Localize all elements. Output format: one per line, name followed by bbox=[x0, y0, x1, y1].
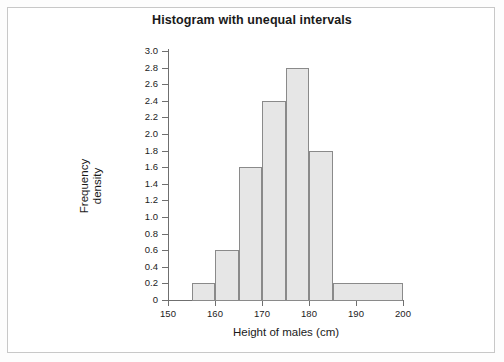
y-tick-mark bbox=[162, 117, 168, 118]
y-axis-line bbox=[168, 49, 169, 301]
histogram-bar bbox=[262, 101, 286, 301]
x-tick-mark bbox=[403, 300, 404, 306]
histogram-bar bbox=[333, 283, 404, 301]
y-tick-label: 1.4 bbox=[118, 179, 158, 189]
y-tick-mark bbox=[162, 267, 168, 268]
y-tick-mark bbox=[162, 234, 168, 235]
y-tick-label: 0 bbox=[118, 295, 158, 305]
x-axis-label: Height of males (cm) bbox=[168, 326, 404, 338]
x-tick-label: 180 bbox=[289, 309, 329, 319]
histogram-bar bbox=[215, 250, 239, 301]
histogram-bar bbox=[309, 151, 333, 301]
y-tick-mark bbox=[162, 283, 168, 284]
x-tick-label: 170 bbox=[242, 309, 282, 319]
x-tick-label: 190 bbox=[336, 309, 376, 319]
y-axis-label-line-1: Frequency bbox=[78, 126, 91, 246]
y-tick-mark bbox=[162, 151, 168, 152]
y-tick-label: 1.6 bbox=[118, 162, 158, 172]
y-tick-label: 1.8 bbox=[118, 146, 158, 156]
page-canvas: Histogram with unequal intervals 00.20.4… bbox=[0, 0, 504, 362]
x-tick-label: 200 bbox=[383, 309, 423, 319]
y-tick-mark bbox=[162, 134, 168, 135]
y-tick-label: 3.0 bbox=[118, 46, 158, 56]
y-tick-label: 2.2 bbox=[118, 112, 158, 122]
y-tick-mark bbox=[162, 184, 168, 185]
y-tick-mark bbox=[162, 101, 168, 102]
y-tick-mark bbox=[162, 51, 168, 52]
y-tick-label: 2.0 bbox=[118, 129, 158, 139]
y-tick-label: 2.6 bbox=[118, 79, 158, 89]
y-tick-label: 0.6 bbox=[118, 245, 158, 255]
histogram-bar bbox=[192, 283, 216, 301]
y-tick-label: 2.8 bbox=[118, 63, 158, 73]
x-tick-label: 160 bbox=[195, 309, 235, 319]
histogram-bar bbox=[239, 167, 263, 301]
y-tick-mark bbox=[162, 84, 168, 85]
y-tick-label: 1.2 bbox=[118, 195, 158, 205]
x-tick-label: 150 bbox=[148, 309, 188, 319]
y-tick-mark bbox=[162, 217, 168, 218]
y-axis-label: Frequency density bbox=[78, 126, 104, 246]
y-tick-label: 0.4 bbox=[118, 262, 158, 272]
y-tick-label: 0.2 bbox=[118, 278, 158, 288]
histogram-plot: 00.20.40.60.81.01.21.41.61.82.02.22.42.6… bbox=[0, 0, 504, 362]
y-tick-label: 1.0 bbox=[118, 212, 158, 222]
y-tick-label: 0.8 bbox=[118, 229, 158, 239]
y-tick-mark bbox=[162, 250, 168, 251]
y-tick-mark bbox=[162, 68, 168, 69]
y-axis-label-line-2: density bbox=[91, 126, 104, 246]
x-tick-mark bbox=[168, 300, 169, 306]
y-tick-label: 2.4 bbox=[118, 96, 158, 106]
histogram-bar bbox=[286, 68, 310, 301]
y-tick-mark bbox=[162, 167, 168, 168]
y-tick-mark bbox=[162, 200, 168, 201]
